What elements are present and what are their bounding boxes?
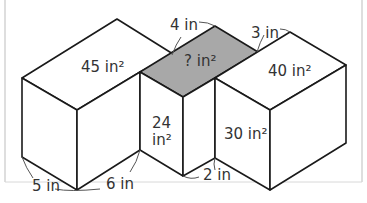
label-area-top-right: 40 in² — [268, 62, 312, 80]
label-length-4in: 4 in — [170, 16, 198, 34]
leader-4in-end — [199, 22, 215, 26]
label-length-6in: 6 in — [106, 175, 134, 193]
label-area-front-middle: 24 — [152, 114, 171, 132]
figure-frame: 45 in² ? in² 40 in² 24 in² 30 in² 4 in 3… — [0, 0, 367, 203]
label-length-2in: 2 in — [203, 166, 231, 184]
label-length-5in: 5 in — [32, 177, 60, 195]
leader-2in — [183, 176, 199, 178]
label-area-top-left: 45 in² — [81, 58, 125, 76]
leader-3in-end — [280, 29, 290, 32]
label-area-front-middle-unit: in² — [152, 131, 172, 149]
label-length-3in: 3 in — [251, 24, 279, 42]
isometric-box-diagram: 45 in² ? in² 40 in² 24 in² 30 in² 4 in 3… — [0, 0, 367, 203]
label-area-top-middle: ? in² — [184, 52, 216, 70]
label-area-front-right: 30 in² — [224, 125, 268, 143]
